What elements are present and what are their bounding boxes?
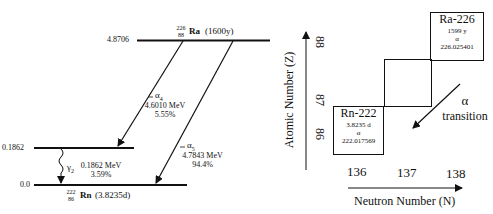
energy-label-0.0: 0.0: [20, 180, 30, 189]
alpha4-arrow: [118, 41, 183, 146]
rn-mass-number: 222: [66, 189, 76, 195]
rn222-mode: α: [334, 129, 383, 137]
diagram-lines: [0, 0, 493, 214]
rn-symbol: Rn: [80, 190, 92, 200]
rn-atomic-number: 86: [66, 196, 76, 202]
empty-cell-box: [385, 60, 432, 107]
ra-atomic-number: 88: [176, 32, 186, 38]
alpha4-energy: 4.6010 MeV: [140, 101, 190, 110]
z-tick-87: 87: [312, 94, 327, 106]
z-axis-label: Atomic Number (Z): [282, 52, 297, 149]
n-tick-136: 136: [347, 164, 367, 180]
z-tick-88: 88: [312, 36, 327, 48]
alpha-transition-symbol: α: [440, 93, 490, 109]
rn222-name: Rn-222: [334, 107, 383, 121]
rn-halflife: (3.8235d): [95, 190, 130, 200]
alpha5-branch: 94.4%: [175, 160, 230, 169]
ra226-box-content: Ra-226 1599 y α 226.025401: [431, 13, 483, 51]
alpha5-energy: 4.7843 MeV: [175, 151, 230, 160]
rn222-halflife: 3.8235 d: [334, 121, 383, 129]
z-tick-86: 86: [312, 128, 327, 140]
alpha-transition-text: transition: [437, 109, 493, 124]
energy-label-0.1862: 0.1862: [2, 143, 24, 152]
gamma2-energy: 0.1862 MeV: [76, 161, 126, 170]
ra-halflife: (1600y): [205, 26, 234, 36]
ra226-mass: 226.025401: [431, 43, 483, 51]
ra226-halflife: 1599 y: [431, 27, 483, 35]
gamma2-branch: 3.59%: [76, 170, 126, 179]
ra226-mode: α: [431, 35, 483, 43]
rn222-box-content: Rn-222 3.8235 d α 222.017569: [334, 107, 383, 145]
ra226-name: Ra-226: [431, 13, 483, 27]
gamma2-label: γ2: [67, 162, 74, 174]
energy-label-4.8706: 4.8706: [107, 35, 129, 44]
gamma2-arrow: [59, 149, 63, 183]
n-tick-137: 137: [397, 165, 417, 181]
ra-mass-number: 226: [176, 25, 186, 31]
alpha4-branch: 5.55%: [140, 110, 190, 119]
ra-symbol: Ra: [189, 26, 200, 36]
n-tick-138: 138: [446, 166, 466, 182]
n-axis-label: Neutron Number (N): [354, 194, 455, 209]
rn222-mass: 222.017569: [334, 137, 383, 145]
